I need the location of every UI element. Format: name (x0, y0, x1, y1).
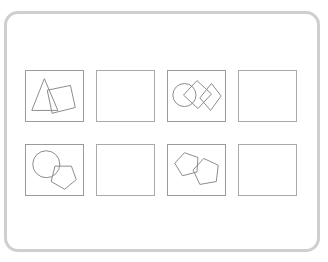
shape-group-circle-pentagon (26, 145, 83, 195)
triangle-shape (32, 79, 58, 111)
stimulus-panel-1[interactable] (25, 70, 84, 122)
pentagon-shape (51, 166, 76, 189)
shape-group-circle-two-squares (168, 71, 225, 121)
puzzle-card (4, 11, 320, 252)
shape-group-two-pentagons (168, 145, 225, 195)
stimulus-panel-5[interactable] (25, 144, 84, 196)
stimulus-panel-3[interactable] (167, 70, 226, 122)
rotated-square-shape (47, 85, 75, 113)
rotated-square-shape-1 (183, 81, 211, 109)
answer-panel-4[interactable] (238, 70, 297, 122)
answer-panel-2[interactable] (96, 70, 155, 122)
panel-grid (25, 70, 313, 196)
rotated-square-shape-2 (200, 84, 221, 111)
answer-panel-8[interactable] (238, 144, 297, 196)
circle-shape (33, 151, 60, 178)
answer-panel-6[interactable] (96, 144, 155, 196)
stimulus-panel-7[interactable] (167, 144, 226, 196)
shape-group-triangle-square (26, 71, 83, 121)
corner-label: ... (318, 1, 322, 6)
